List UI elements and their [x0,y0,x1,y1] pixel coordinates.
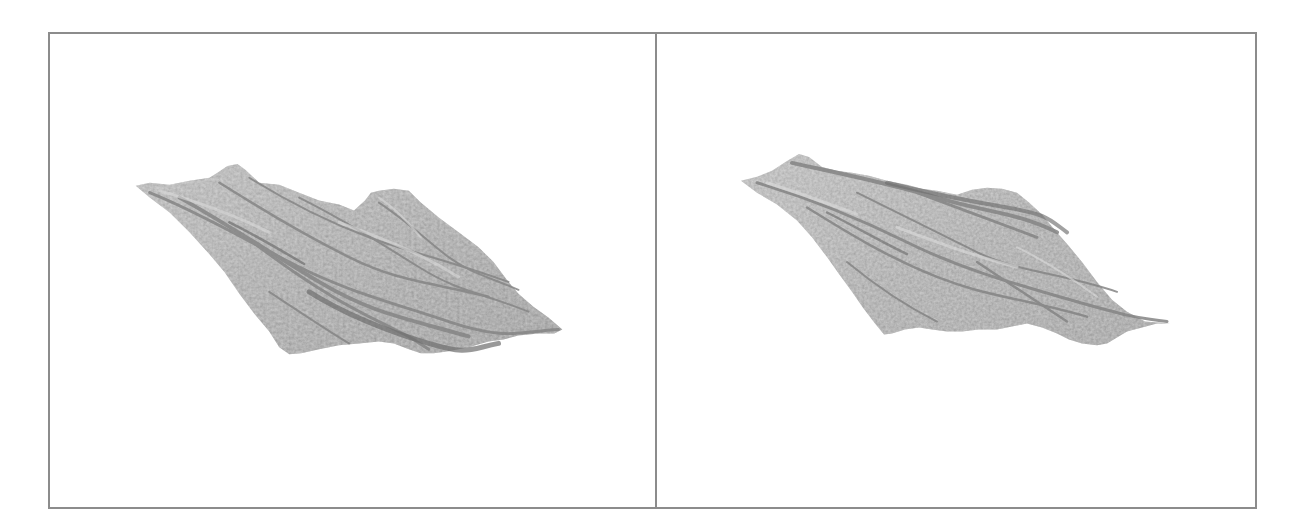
terrain-surface-left [50,34,655,507]
panel-right [657,34,1255,507]
panel-left [50,34,657,507]
figure-frame [48,32,1257,509]
terrain-surface-right [657,34,1255,507]
